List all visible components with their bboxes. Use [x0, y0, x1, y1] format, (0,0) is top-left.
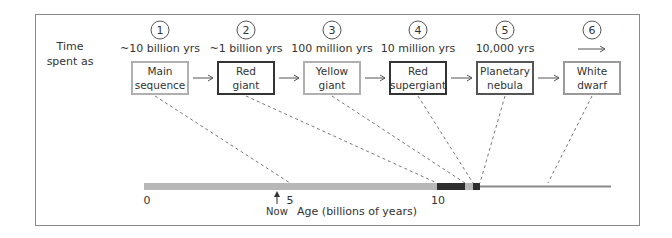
step-number: 1 — [157, 24, 164, 37]
stage-duration: 100 million yrs — [291, 42, 373, 55]
stage-6: 6Whitedwarf — [564, 21, 620, 94]
row-label-spent-as: spent as — [47, 55, 94, 68]
step-number: 2 — [243, 24, 250, 37]
stellar-evolution-diagram: Time spent as 1~10 billion yrsMainsequen… — [0, 0, 672, 238]
stage-duration: 10 million yrs — [381, 42, 456, 55]
stage-1: 1~10 billion yrsMainsequence — [120, 21, 213, 94]
stage-duration: ~1 billion yrs — [210, 42, 283, 55]
stage-name-line2: sequence — [135, 79, 186, 91]
tick-0: 0 — [144, 194, 151, 207]
step-number: 6 — [589, 24, 596, 37]
yellow-giant-bar — [465, 183, 473, 190]
stage-2: 2~1 billion yrsRedgiant — [210, 21, 299, 94]
stage-to-timeline-dashed-line — [155, 96, 290, 183]
stage-name-line1: Yellow — [315, 65, 349, 77]
step-number: 5 — [502, 24, 509, 37]
now-label: Now — [266, 206, 288, 217]
red-supergiant-bar — [473, 183, 480, 190]
stage-name-line1: Planetary — [480, 65, 530, 77]
stage-name-line1: Red — [236, 65, 256, 77]
stage-name-line2: supergiant — [390, 79, 446, 91]
stage-name-line2: giant — [319, 79, 346, 91]
stage-duration: 10,000 yrs — [476, 42, 535, 55]
stage-name-line1: Main — [147, 65, 172, 77]
stage-to-timeline-dashed-line — [246, 96, 437, 183]
stage-name-line1: Red — [408, 65, 428, 77]
stage-5: 510,000 yrsPlanetarynebula — [476, 21, 559, 94]
stage-3: 3100 million yrsYellowgiant — [291, 21, 385, 94]
stage-name-line2: giant — [233, 79, 260, 91]
stage-name-line1: White — [577, 65, 608, 77]
stage-to-timeline-dashed-line — [548, 96, 592, 183]
stage-name-line2: nebula — [487, 79, 523, 91]
stage-name-line2: dwarf — [577, 79, 607, 91]
stage-to-timeline-dashed-line — [480, 96, 505, 183]
stage-4: 410 million yrsRedsupergiant — [381, 21, 472, 94]
stage-to-timeline-dashed-line — [332, 96, 465, 183]
step-number: 4 — [415, 24, 422, 37]
step-number: 3 — [329, 24, 336, 37]
x-axis-label: Age (billions of years) — [297, 205, 417, 218]
main-sequence-bar — [144, 183, 438, 190]
stage-duration: ~10 billion yrs — [120, 42, 200, 55]
row-label-time: Time — [56, 40, 84, 53]
stage-to-timeline-dashed-line — [418, 96, 473, 183]
tick-10: 10 — [431, 194, 445, 207]
timeline: 0 5 10 Now Age (billions of years) — [144, 183, 612, 218]
now-arrow-head-icon — [274, 191, 280, 197]
red-giant-bar — [437, 183, 465, 190]
